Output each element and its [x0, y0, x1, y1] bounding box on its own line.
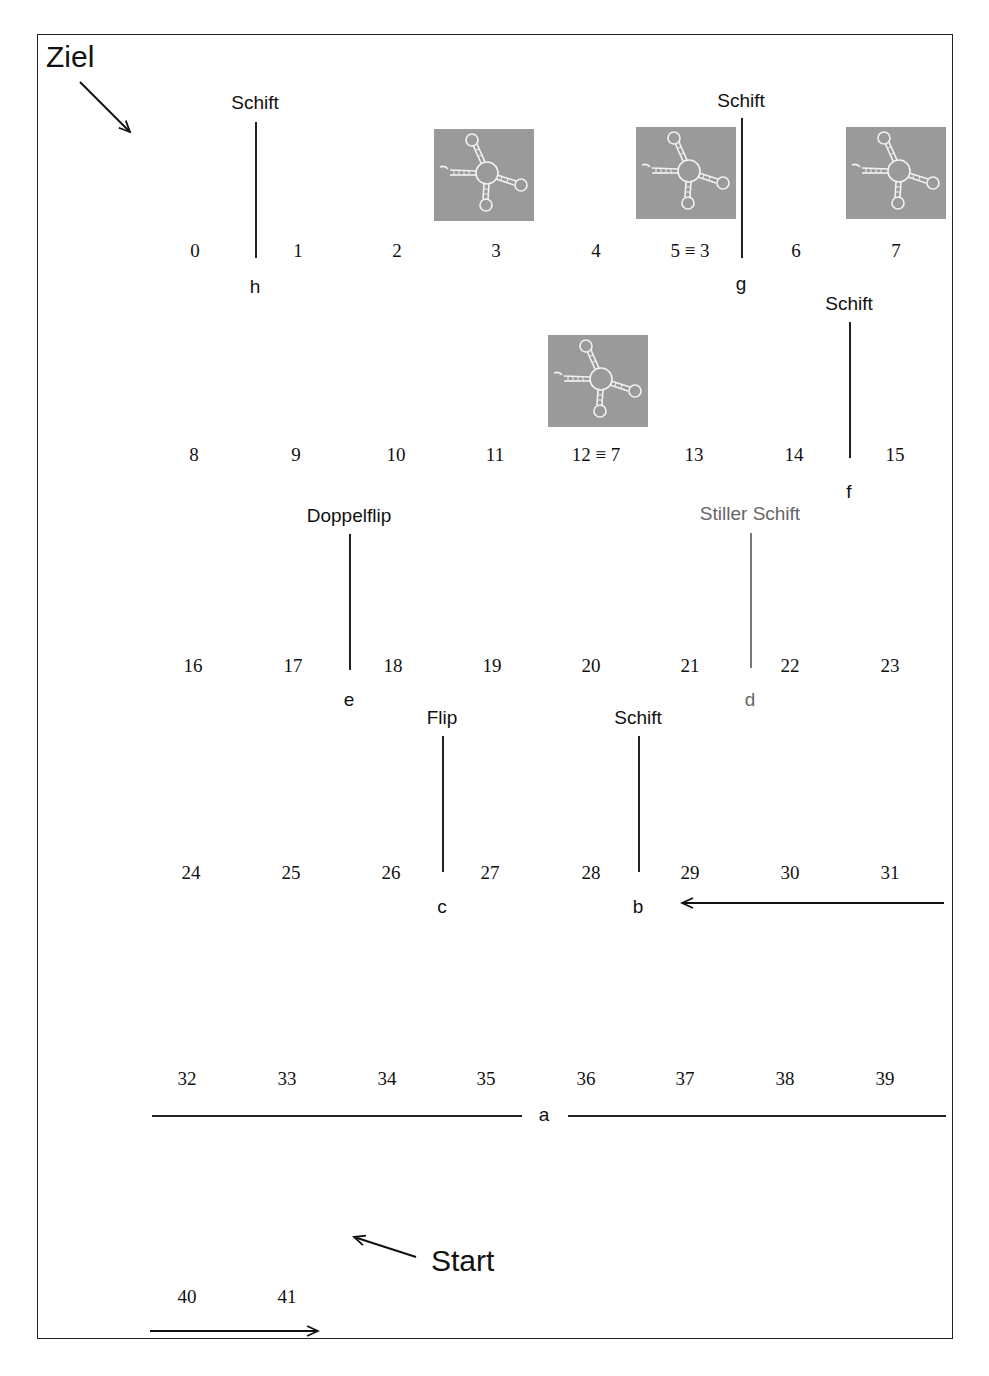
target-arrow-icon	[80, 82, 130, 132]
start-arrow-icon	[354, 1237, 416, 1257]
arrows-overlay	[0, 0, 989, 1376]
